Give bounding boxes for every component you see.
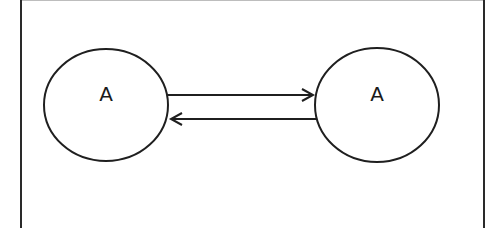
state-diagram: A A	[0, 0, 488, 228]
edge-right-to-left	[171, 113, 316, 125]
edge-left-to-right	[168, 89, 313, 101]
node-right-label: A	[370, 82, 384, 106]
node-left: A	[44, 49, 168, 161]
node-left-label: A	[99, 82, 113, 106]
node-right: A	[315, 48, 439, 162]
